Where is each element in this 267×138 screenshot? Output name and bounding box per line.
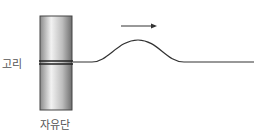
arrow-right-icon [121,24,157,29]
free-end-label: 자유단 [40,116,70,132]
ring-label: 고리 [2,55,22,71]
wave-pulse-string [73,40,254,62]
pole [40,16,72,110]
